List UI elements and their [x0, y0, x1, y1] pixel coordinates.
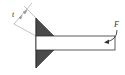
- weld-diagram: t F: [0, 0, 125, 75]
- force-label: F: [113, 20, 119, 29]
- beam: [36, 36, 115, 50]
- thickness-dimension: [14, 3, 36, 36]
- thickness-label: t: [12, 10, 15, 19]
- upper-weld: [36, 18, 54, 36]
- lower-weld: [36, 50, 54, 68]
